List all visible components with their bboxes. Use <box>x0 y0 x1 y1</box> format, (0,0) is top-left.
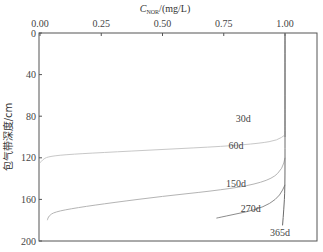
curve-60d <box>40 135 285 163</box>
curve-365d <box>283 33 285 225</box>
x-tick-label: 0.75 <box>215 18 233 29</box>
y-tick-label: 0 <box>31 28 36 39</box>
y-tick-label: 120 <box>21 152 36 163</box>
curve-labels: 30d60d150d270d365d <box>226 113 290 237</box>
curve-label-60d: 60d <box>229 140 244 151</box>
plot-frame <box>39 33 317 241</box>
x-tick-label: 0.25 <box>93 18 111 29</box>
x-tick-label: 0.50 <box>154 18 172 29</box>
curve-label-30d: 30d <box>236 113 251 124</box>
y-tick-label: 160 <box>21 194 36 205</box>
y-tick-label: 80 <box>26 111 36 122</box>
curves <box>40 33 285 225</box>
x-axis-title: CNOR/(mg/L) <box>140 3 190 15</box>
y-tick-label: 40 <box>26 69 36 80</box>
curve-label-150d: 150d <box>226 178 246 189</box>
curve-label-270d: 270d <box>241 203 261 214</box>
y-tick-label: 200 <box>21 236 36 247</box>
x-tick-label: 1.00 <box>276 18 294 29</box>
curve-label-365d: 365d <box>270 227 290 238</box>
chart: CNOR/(mg/L) 0.000.250.500.751.00 0408012… <box>0 0 323 252</box>
y-axis-title: 包气带深度/cm <box>2 103 14 172</box>
